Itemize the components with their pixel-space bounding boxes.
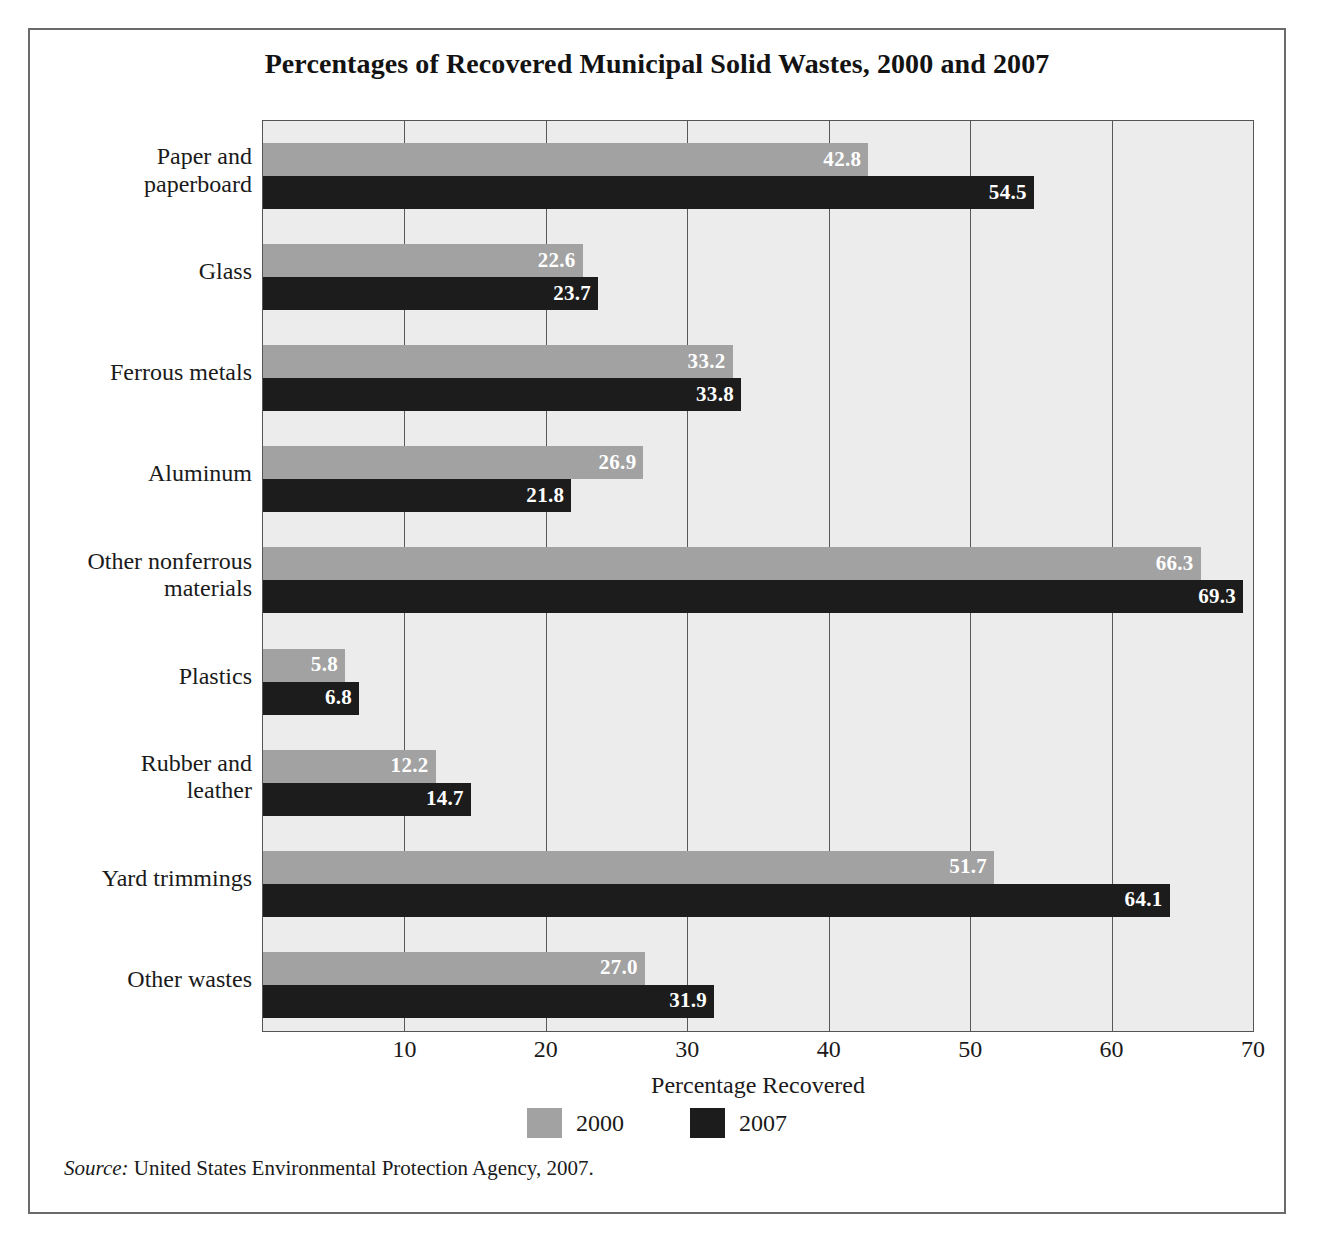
- category-label-text: Glass: [199, 258, 252, 285]
- bar-value-label: 22.6: [538, 248, 576, 273]
- chart-title: Percentages of Recovered Municipal Solid…: [30, 48, 1284, 80]
- bar-2007: 31.9: [263, 985, 714, 1018]
- category-label-text: Other nonferrousmaterials: [87, 548, 252, 602]
- bar-value-label: 14.7: [426, 786, 464, 811]
- bar-value-label: 64.1: [1125, 887, 1163, 912]
- bar-value-label: 6.8: [325, 685, 352, 710]
- category-label-text: Rubber andleather: [141, 750, 252, 804]
- legend: 20002007: [30, 1108, 1284, 1138]
- legend-label-2000: 2000: [576, 1110, 624, 1137]
- bar-2007: 69.3: [263, 580, 1243, 613]
- bar-value-label: 5.8: [311, 652, 338, 677]
- bar-2007: 14.7: [263, 783, 471, 816]
- bar-2000: 42.8: [263, 143, 868, 176]
- bar-value-label: 27.0: [600, 955, 638, 980]
- bar-value-label: 51.7: [949, 854, 987, 879]
- legend-swatch-2007: [690, 1108, 725, 1138]
- bar-group: 51.764.1: [263, 829, 1253, 930]
- bar-2000: 33.2: [263, 345, 733, 378]
- bar-2000: 12.2: [263, 750, 436, 783]
- bar-group: 66.369.3: [263, 525, 1253, 626]
- category-label-text: Aluminum: [148, 460, 252, 487]
- category-label-9: Other wastes: [42, 929, 252, 1030]
- bar-value-label: 69.3: [1198, 584, 1236, 609]
- category-label-3: Ferrous metals: [42, 322, 252, 423]
- bar-value-label: 66.3: [1156, 551, 1194, 576]
- category-label-2: Glass: [42, 221, 252, 322]
- category-label-text: Ferrous metals: [110, 359, 252, 386]
- bar-2000: 26.9: [263, 446, 643, 479]
- legend-swatch-2000: [527, 1108, 562, 1138]
- category-label-7: Rubber andleather: [42, 727, 252, 828]
- bar-group: 33.233.8: [263, 323, 1253, 424]
- bar-value-label: 26.9: [598, 450, 636, 475]
- category-label-text: Paper andpaperboard: [144, 143, 252, 197]
- bar-value-label: 33.2: [688, 349, 726, 374]
- bar-group: 26.921.8: [263, 424, 1253, 525]
- legend-item-2000[interactable]: 2000: [527, 1108, 624, 1138]
- x-tick-label-40: 40: [817, 1036, 841, 1063]
- bar-2000: 22.6: [263, 244, 583, 277]
- category-label-8: Yard trimmings: [42, 828, 252, 929]
- legend-label-2007: 2007: [739, 1110, 787, 1137]
- bar-2000: 5.8: [263, 649, 345, 682]
- x-axis-title: Percentage Recovered: [262, 1072, 1254, 1099]
- bar-value-label: 21.8: [526, 483, 564, 508]
- bar-group: 27.031.9: [263, 930, 1253, 1031]
- x-tick-label-20: 20: [534, 1036, 558, 1063]
- category-label-text: Other wastes: [127, 966, 252, 993]
- bar-2000: 51.7: [263, 851, 994, 884]
- bar-value-label: 12.2: [391, 753, 429, 778]
- bar-2007: 64.1: [263, 884, 1170, 917]
- bar-value-label: 54.5: [989, 180, 1027, 205]
- plot-area: 42.854.522.623.733.233.826.921.866.369.3…: [262, 120, 1254, 1032]
- x-tick-label-60: 60: [1100, 1036, 1124, 1063]
- category-label-1: Paper andpaperboard: [42, 120, 252, 221]
- bar-group: 5.86.8: [263, 627, 1253, 728]
- source-note: Source: United States Environmental Prot…: [64, 1156, 594, 1181]
- bar-2007: 6.8: [263, 682, 359, 715]
- bar-group: 22.623.7: [263, 222, 1253, 323]
- category-label-4: Aluminum: [42, 423, 252, 524]
- bar-2007: 21.8: [263, 479, 571, 512]
- bar-value-label: 23.7: [553, 281, 591, 306]
- source-text: United States Environmental Protection A…: [129, 1156, 594, 1180]
- category-label-text: Yard trimmings: [102, 865, 252, 892]
- legend-item-2007[interactable]: 2007: [690, 1108, 787, 1138]
- bar-2000: 66.3: [263, 547, 1201, 580]
- bar-group: 42.854.5: [263, 121, 1253, 222]
- bar-value-label: 31.9: [669, 988, 707, 1013]
- bar-2007: 23.7: [263, 277, 598, 310]
- bar-2007: 33.8: [263, 378, 741, 411]
- category-label-5: Other nonferrousmaterials: [42, 524, 252, 625]
- bar-group: 12.214.7: [263, 728, 1253, 829]
- category-label-6: Plastics: [42, 626, 252, 727]
- category-axis-labels: Paper andpaperboardGlassFerrous metalsAl…: [42, 120, 252, 1030]
- source-label: Source:: [64, 1156, 129, 1180]
- x-axis-tick-labels: 10203040506070: [262, 1036, 1254, 1070]
- bar-2007: 54.5: [263, 176, 1034, 209]
- bar-value-label: 42.8: [823, 147, 861, 172]
- x-tick-label-30: 30: [675, 1036, 699, 1063]
- category-label-text: Plastics: [179, 663, 252, 690]
- figure-frame: Percentages of Recovered Municipal Solid…: [28, 28, 1286, 1214]
- x-tick-label-70: 70: [1241, 1036, 1265, 1063]
- bar-2000: 27.0: [263, 952, 645, 985]
- x-tick-label-50: 50: [958, 1036, 982, 1063]
- x-tick-label-10: 10: [392, 1036, 416, 1063]
- bar-value-label: 33.8: [696, 382, 734, 407]
